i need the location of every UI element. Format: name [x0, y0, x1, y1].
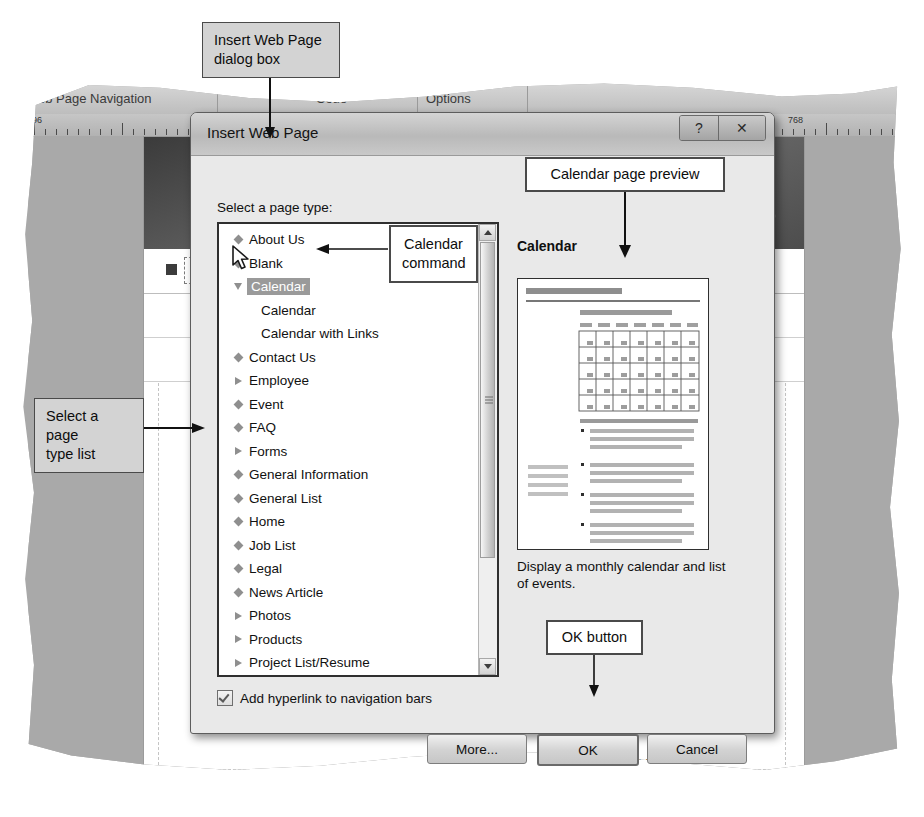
cancel-button[interactable]: Cancel	[647, 734, 747, 764]
dialog-title: Insert Web Page	[207, 124, 318, 141]
list-item-label: Calendar	[259, 303, 316, 318]
list-item-label: About Us	[247, 232, 305, 247]
page-type-listbox[interactable]: About UsBlankCalendarCalendarCalendar wi…	[217, 222, 499, 677]
list-item[interactable]: Job List	[219, 534, 479, 558]
add-hyperlink-checkbox[interactable]	[217, 690, 233, 706]
ribbon-tab-code[interactable]: Code	[218, 84, 418, 114]
callout-ok-button: OK button	[546, 620, 643, 655]
list-item[interactable]: Calendar with Links	[219, 322, 479, 346]
add-hyperlink-checkbox-row[interactable]: Add hyperlink to navigation bars	[217, 690, 432, 706]
help-icon[interactable]: ?	[680, 116, 719, 140]
list-item[interactable]: Employee	[219, 369, 479, 393]
list-item-label: General List	[247, 491, 322, 506]
list-item[interactable]: Home	[219, 510, 479, 534]
scroll-down-icon[interactable]	[479, 658, 496, 675]
list-item-label: Home	[247, 514, 285, 529]
diamond-icon	[229, 495, 247, 502]
list-item-label: News Article	[247, 585, 323, 600]
add-hyperlink-label: Add hyperlink to navigation bars	[240, 691, 432, 706]
scrollbar-grip-icon	[485, 397, 493, 404]
diamond-icon	[229, 401, 247, 408]
list-item[interactable]: General List	[219, 487, 479, 511]
list-item[interactable]: Contact Us	[219, 346, 479, 370]
list-item-label: Job List	[247, 538, 296, 553]
diamond-icon	[229, 354, 247, 361]
list-item-label: General Information	[247, 467, 368, 482]
diamond-icon	[229, 236, 247, 243]
diamond-icon	[229, 542, 247, 549]
mouse-cursor-icon	[231, 245, 253, 271]
list-item-label: Legal	[247, 561, 282, 576]
ribbon-tab-options[interactable]: Options	[418, 84, 528, 114]
list-item[interactable]: General Information	[219, 463, 479, 487]
ribbon-ghost-options: ptions	[428, 64, 467, 79]
list-item[interactable]: Forms	[219, 440, 479, 464]
list-item[interactable]: Event	[219, 393, 479, 417]
list-item[interactable]: Related Links	[219, 675, 479, 678]
dialog-title-bar[interactable]: Insert Web Page ? ✕	[191, 113, 774, 156]
scroll-up-icon[interactable]	[479, 224, 496, 241]
insert-web-page-dialog: Insert Web Page ? ✕ Select a page type: …	[190, 112, 775, 734]
list-item-label: Calendar	[247, 278, 310, 295]
ribbon-strip: Web Page Navigation Code Options	[18, 84, 906, 115]
callout-calendar-preview: Calendar page preview	[525, 157, 725, 192]
ok-button-label: OK	[578, 743, 598, 758]
screenshot-root: Bar ptions Web Page Navigation Code Opti…	[0, 0, 924, 817]
list-item[interactable]: Legal	[219, 557, 479, 581]
chevron-right-icon[interactable]	[229, 612, 247, 620]
list-item-label: Products	[247, 632, 302, 647]
select-page-type-label: Select a page type:	[217, 200, 333, 215]
callout-dialog-box: Insert Web Page dialog box	[202, 22, 340, 78]
chevron-right-icon[interactable]	[229, 659, 247, 667]
list-item-label: Event	[247, 397, 284, 412]
more-button-label: More...	[456, 742, 498, 757]
diamond-icon	[229, 565, 247, 572]
diamond-icon	[229, 424, 247, 431]
close-icon[interactable]: ✕	[719, 116, 765, 140]
list-item[interactable]: Products	[219, 628, 479, 652]
chevron-down-icon[interactable]	[229, 283, 247, 290]
list-item-label: Photos	[247, 608, 291, 623]
preview-description: Display a monthly calendar and list of e…	[517, 558, 727, 592]
ok-button[interactable]: OK	[537, 734, 639, 766]
ribbon-tab-web-page-navigation[interactable]: Web Page Navigation	[18, 84, 218, 114]
chevron-right-icon[interactable]	[229, 447, 247, 455]
diamond-icon	[229, 518, 247, 525]
dialog-window-buttons: ? ✕	[679, 115, 766, 141]
ribbon-tab-label: Web Page Navigation	[26, 91, 152, 106]
ribbon-ghost-bar: Bar	[128, 66, 150, 81]
list-item[interactable]: Project List/Resume	[219, 651, 479, 675]
ribbon-tab-label: Options	[426, 91, 471, 106]
preview-thumbnail	[518, 279, 708, 549]
more-button[interactable]: More...	[427, 734, 527, 764]
preview-heading: Calendar	[517, 238, 577, 254]
chevron-right-icon[interactable]	[229, 377, 247, 385]
ruler-mark: 96	[32, 115, 42, 125]
list-item-label: Project List/Resume	[247, 655, 370, 670]
callout-page-type-list: Select a page type list	[34, 398, 144, 473]
list-item[interactable]: News Article	[219, 581, 479, 605]
page-type-list[interactable]: About UsBlankCalendarCalendarCalendar wi…	[219, 228, 479, 675]
diamond-icon	[229, 471, 247, 478]
nav-bullet-icon	[166, 264, 177, 275]
callout-calendar-command: Calendar command	[389, 225, 478, 283]
list-item-label: Employee	[247, 373, 309, 388]
calendar-page-preview	[517, 278, 709, 550]
list-item[interactable]: FAQ	[219, 416, 479, 440]
list-item-label: Calendar with Links	[259, 326, 379, 341]
list-item[interactable]: Photos	[219, 604, 479, 628]
chevron-right-icon[interactable]	[229, 635, 247, 643]
list-item[interactable]: Calendar	[219, 299, 479, 323]
dialog-body: Select a page type: About UsBlankCalenda…	[191, 156, 774, 734]
list-item-label: Forms	[247, 444, 287, 459]
list-item-label: FAQ	[247, 420, 276, 435]
listbox-scrollbar[interactable]	[478, 224, 497, 675]
list-item-label: Contact Us	[247, 350, 316, 365]
scrollbar-thumb[interactable]	[480, 242, 495, 558]
ruler-mark: 768	[788, 115, 803, 125]
ribbon-tab-label: Code	[316, 91, 347, 106]
cancel-button-label: Cancel	[676, 742, 718, 757]
diamond-icon	[229, 589, 247, 596]
